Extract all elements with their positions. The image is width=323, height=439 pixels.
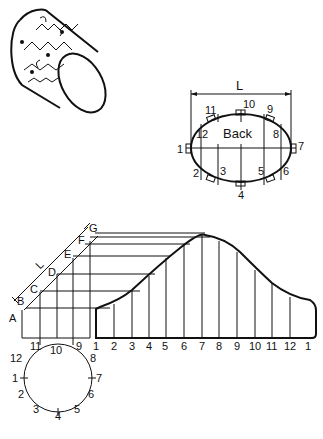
svg-text:E: E (64, 248, 71, 260)
svg-text:1: 1 (12, 372, 18, 384)
svg-text:2: 2 (111, 340, 117, 352)
side-view: A B C D E F G L 11 9 (9, 222, 210, 352)
svg-text:12: 12 (10, 352, 22, 364)
development-pattern (96, 235, 316, 338)
svg-text:10: 10 (243, 98, 255, 110)
svg-text:10: 10 (249, 340, 261, 352)
svg-text:6: 6 (181, 340, 187, 352)
svg-text:11: 11 (205, 104, 216, 116)
svg-text:9: 9 (234, 340, 240, 352)
svg-text:8: 8 (273, 128, 279, 140)
svg-text:4: 4 (238, 189, 244, 201)
svg-text:11: 11 (30, 340, 41, 352)
circle-view: 10 12 8 1 7 2 6 3 5 4 (10, 344, 102, 422)
svg-text:1: 1 (177, 143, 183, 155)
svg-text:5: 5 (258, 165, 264, 177)
dimension-L-ellipse: L (236, 78, 243, 93)
svg-text:8: 8 (90, 352, 96, 364)
svg-text:1: 1 (93, 340, 99, 352)
svg-text:7: 7 (298, 140, 304, 152)
svg-text:8: 8 (216, 340, 222, 352)
svg-text:D: D (48, 266, 56, 278)
iso-cylinder (11, 10, 115, 121)
back-label: Back (223, 126, 252, 141)
svg-text:10: 10 (50, 344, 62, 356)
svg-text:6: 6 (88, 388, 94, 400)
svg-text:12: 12 (196, 128, 208, 140)
svg-text:F: F (78, 234, 85, 246)
svg-text:G: G (89, 222, 98, 234)
svg-text:12: 12 (284, 340, 296, 352)
svg-text:5: 5 (162, 340, 168, 352)
svg-text:7: 7 (199, 340, 205, 352)
svg-text:2: 2 (18, 388, 24, 400)
svg-text:L: L (33, 258, 46, 271)
ellipse-view: L Back 1 2 3 4 5 6 7 8 9 10 11 12 (177, 78, 304, 201)
svg-text:3: 3 (33, 403, 39, 415)
svg-text:C: C (30, 283, 38, 295)
svg-text:A: A (9, 312, 17, 324)
svg-text:9: 9 (267, 103, 273, 115)
svg-text:11: 11 (266, 340, 277, 352)
svg-text:1: 1 (305, 340, 311, 352)
svg-text:6: 6 (283, 165, 289, 177)
drawing-canvas: L Back 1 2 3 4 5 6 7 8 9 10 11 12 (0, 0, 323, 439)
svg-text:7: 7 (96, 372, 102, 384)
development-x-labels: 1 2 3 4 5 6 7 8 9 10 11 12 1 (93, 340, 311, 352)
svg-text:4: 4 (146, 340, 152, 352)
svg-text:2: 2 (193, 167, 199, 179)
svg-text:3: 3 (129, 340, 135, 352)
svg-text:B: B (17, 295, 24, 307)
svg-text:3: 3 (220, 165, 226, 177)
svg-text:5: 5 (74, 403, 80, 415)
